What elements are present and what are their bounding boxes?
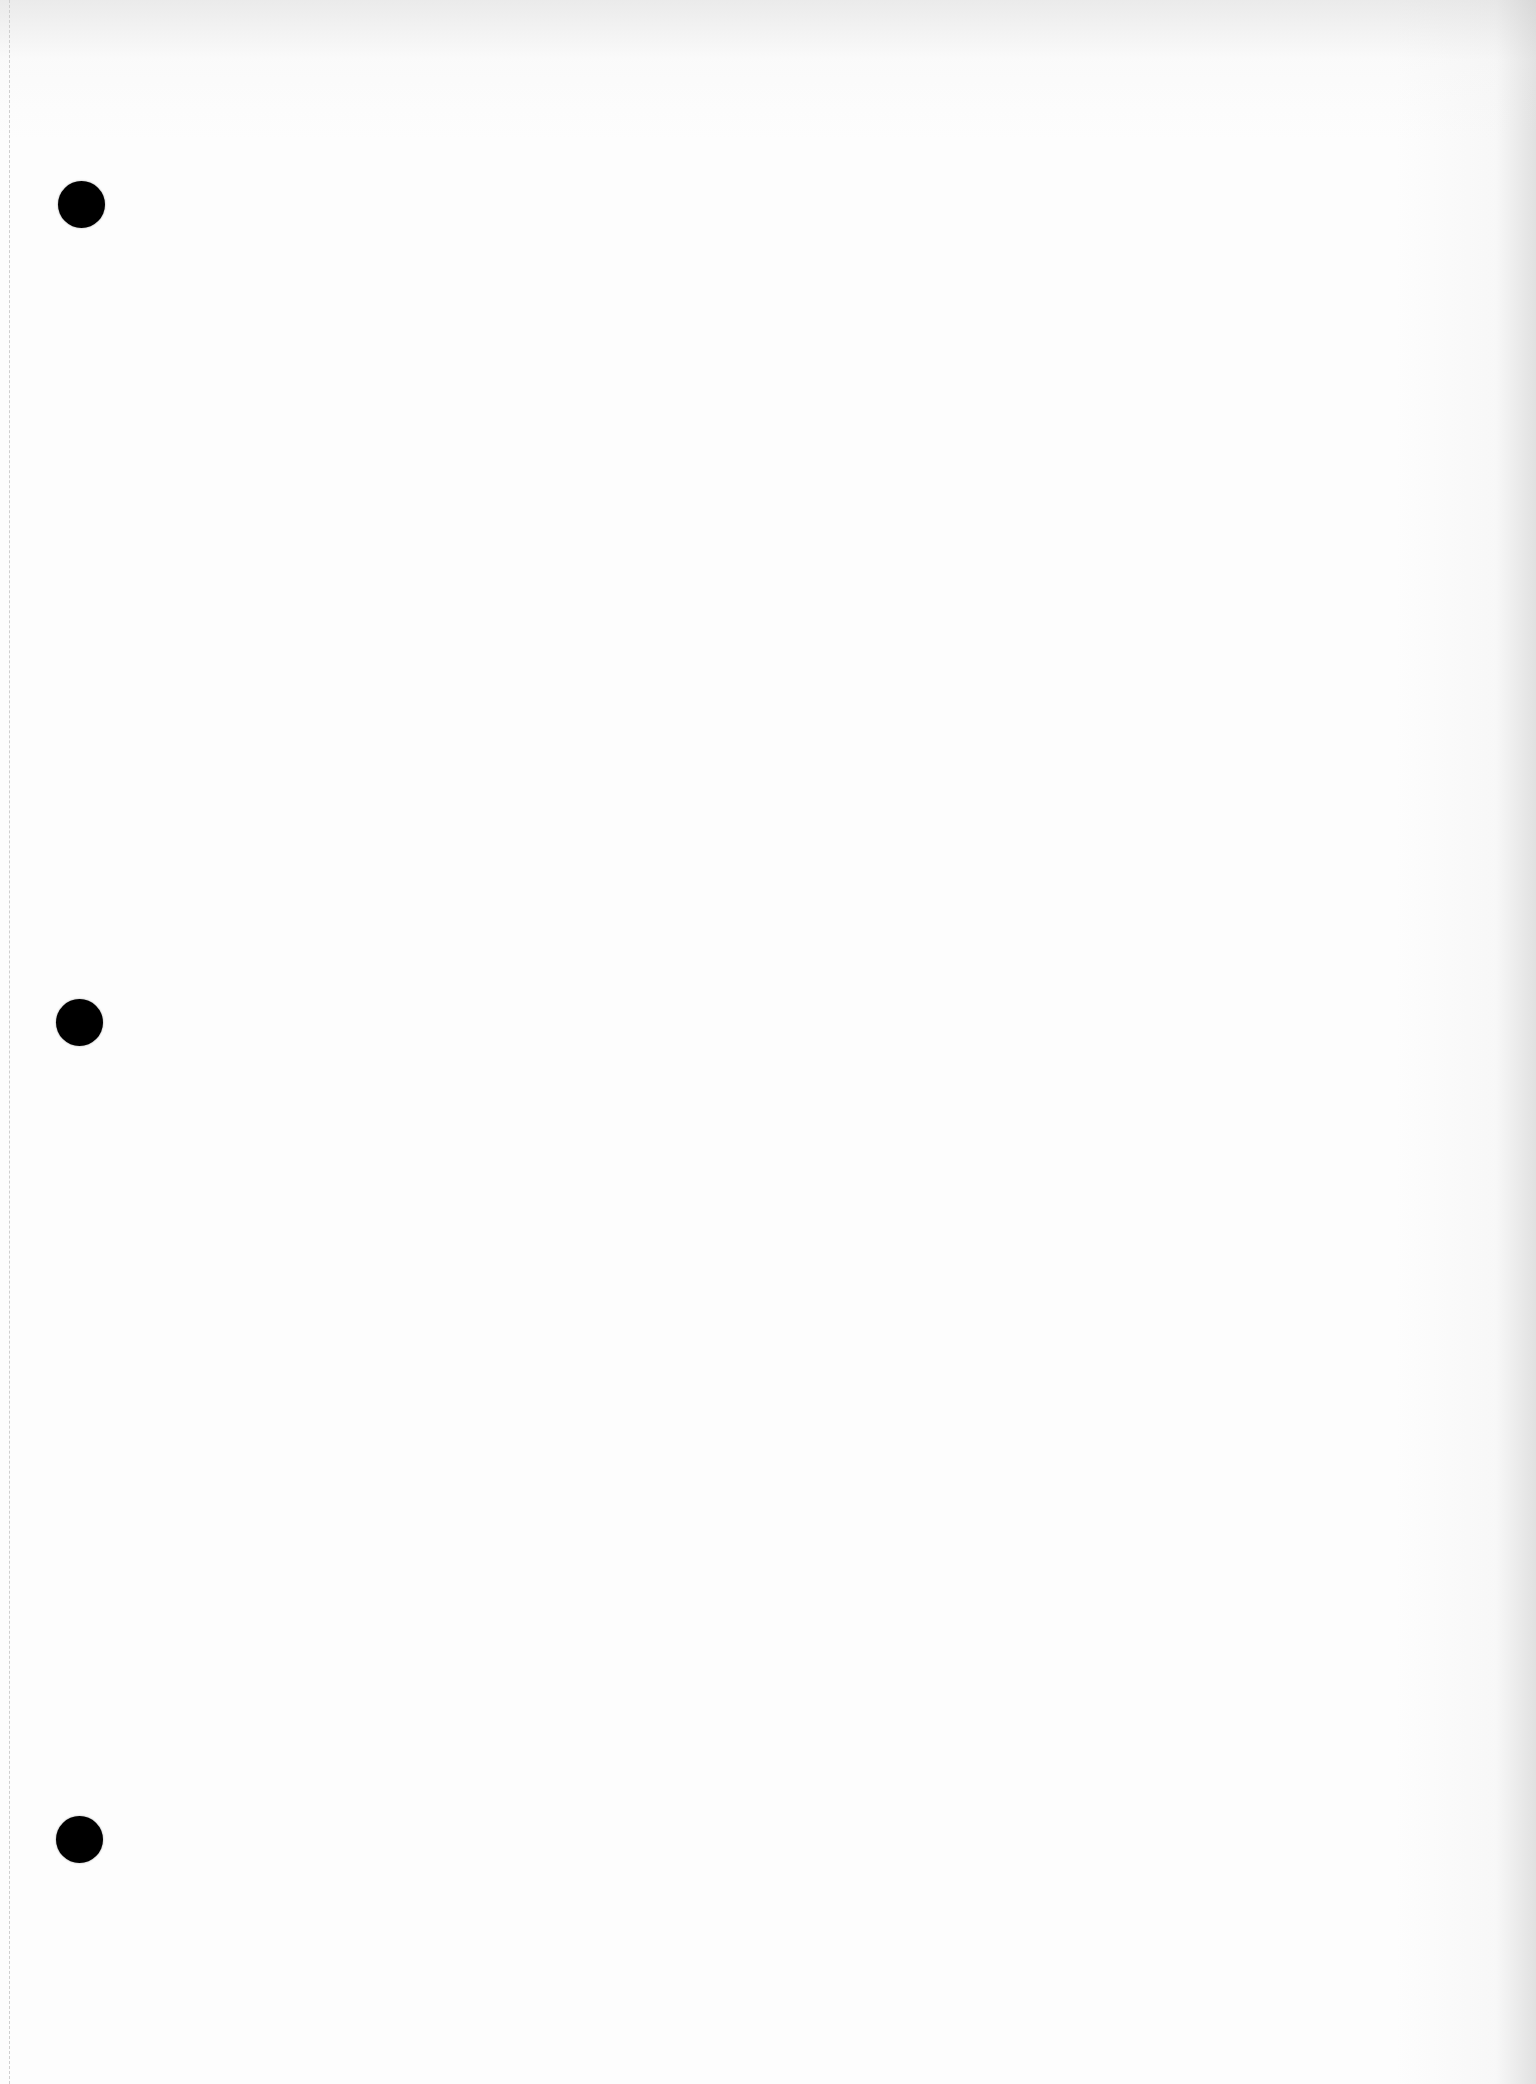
blank-paper-sheet <box>0 0 1536 2084</box>
perforation-line <box>9 0 10 2084</box>
punch-hole-middle-icon <box>56 999 103 1046</box>
punch-hole-bottom-icon <box>56 1816 103 1863</box>
page-body <box>130 80 1456 2004</box>
punch-hole-top-icon <box>58 181 105 228</box>
